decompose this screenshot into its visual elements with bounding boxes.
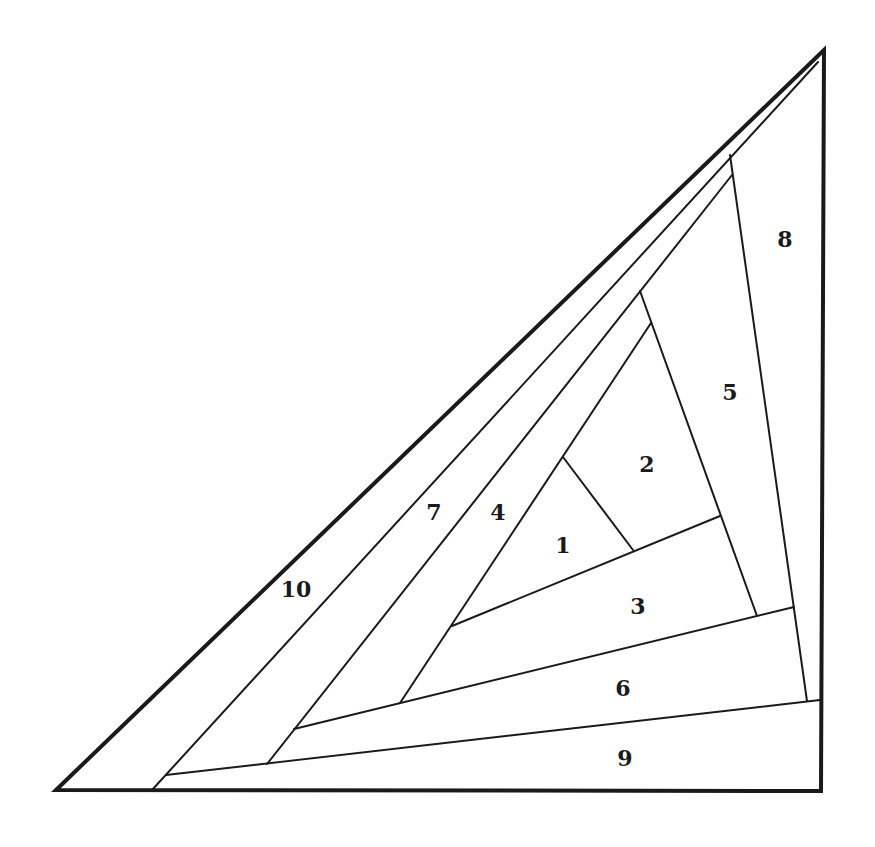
region-label-4: 4: [490, 499, 505, 525]
region-label-5: 5: [722, 379, 737, 405]
region-label-8: 8: [777, 226, 792, 252]
region-label-10: 10: [281, 576, 312, 602]
region-label-6: 6: [615, 675, 630, 701]
region-label-2: 2: [639, 451, 654, 477]
region-label-9: 9: [617, 745, 632, 771]
region-label-1: 1: [555, 532, 570, 558]
region-label-3: 3: [630, 593, 645, 619]
paper-piecing-diagram: 12345678910: [0, 0, 875, 847]
region-label-7: 7: [426, 499, 441, 525]
